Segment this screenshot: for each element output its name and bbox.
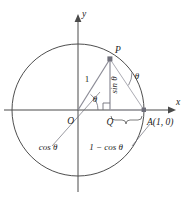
point-p-marker bbox=[107, 56, 112, 61]
label-cos-theta: cos θ bbox=[39, 142, 58, 152]
x-axis-label: x bbox=[175, 97, 181, 107]
label-angle-theta-chord: θ bbox=[135, 71, 140, 81]
one-minus-cos-leader-line bbox=[132, 124, 150, 146]
angle-theta-arc-p bbox=[129, 73, 133, 86]
y-axis-arrow bbox=[75, 14, 82, 22]
label-sin-theta: sin θ bbox=[109, 76, 119, 94]
label-angle-theta-origin: θ bbox=[93, 94, 98, 104]
point-label-p: P bbox=[114, 45, 121, 55]
point-label-origin: O bbox=[67, 116, 74, 126]
unit-circle-diagram: x y O P Q A(1, 0) 1 θ θ sin θ cos θ 1 − … bbox=[0, 0, 187, 197]
y-axis-label: y bbox=[81, 9, 87, 19]
unit-circle-figure-container: x y O P Q A(1, 0) 1 θ θ sin θ cos θ 1 − … bbox=[0, 0, 187, 197]
label-radius-one: 1 bbox=[85, 74, 90, 84]
right-angle-marker-q bbox=[103, 103, 110, 110]
x-axis-arrow bbox=[168, 107, 176, 114]
brace-qa bbox=[111, 116, 142, 124]
point-label-a: A(1, 0) bbox=[146, 117, 173, 128]
point-a-marker bbox=[142, 108, 146, 112]
label-one-minus-cos-theta: 1 − cos θ bbox=[89, 142, 123, 152]
point-label-q: Q bbox=[107, 117, 114, 127]
